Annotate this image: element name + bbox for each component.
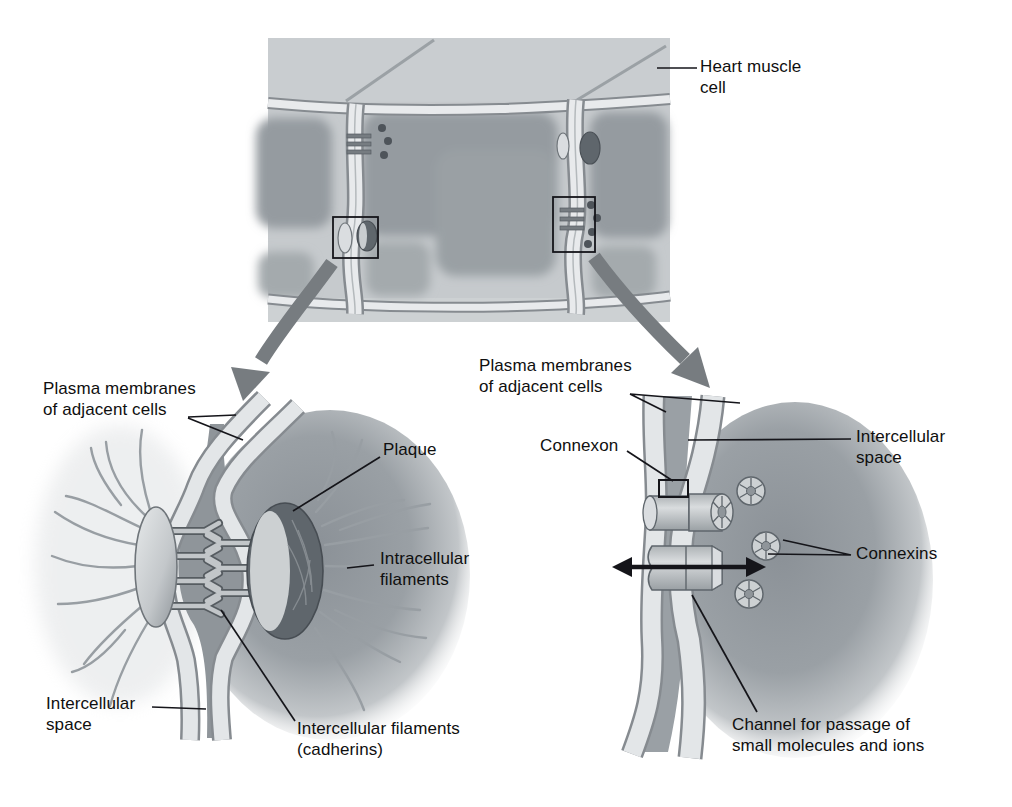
leader-intercellular-space-right xyxy=(688,439,851,440)
connexon-face-rosette xyxy=(711,494,733,530)
label-plasma-membranes-left: Plasma membranes of adjacent cells xyxy=(43,378,196,420)
label-intercellular-space-right: Intercellular space xyxy=(856,426,945,468)
label-heart-muscle-cell: Heart muscle cell xyxy=(700,56,801,98)
label-connexon: Connexon xyxy=(540,435,618,456)
label-plasma-membranes-right: Plasma membranes of adjacent cells xyxy=(479,355,632,397)
label-connexins: Connexins xyxy=(856,543,937,564)
connexon-pair-upper xyxy=(643,494,733,531)
label-heart-muscle-cell-line1: Heart muscle xyxy=(700,56,801,77)
plaque-right xyxy=(247,503,323,639)
label-plaque: Plaque xyxy=(383,439,437,460)
label-heart-muscle-cell-line2: cell xyxy=(700,77,801,98)
label-intercellular-filaments-cadherins: Intercellular filaments (cadherins) xyxy=(297,718,460,760)
label-channel: Channel for passage of small molecules a… xyxy=(732,714,924,756)
label-intracellular-filaments: Intracellular filaments xyxy=(380,548,469,590)
figure-cell-junctions: { "figure": { "description": "Diagram of… xyxy=(0,0,1012,807)
upper-cell-row xyxy=(268,38,670,102)
label-intercellular-space-left: Intercellular space xyxy=(46,693,135,735)
plaque-left xyxy=(135,507,177,627)
